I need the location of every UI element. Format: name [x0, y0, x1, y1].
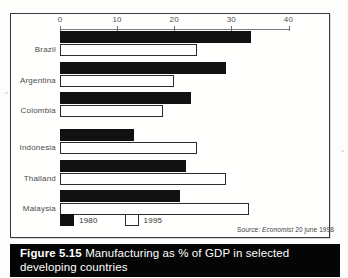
legend-swatch-1980	[60, 214, 74, 226]
x-axis-tick	[289, 26, 290, 31]
x-axis-tick-label: 10	[112, 15, 121, 24]
legend-label-1980: 1980	[79, 216, 98, 225]
bar-thailand-1980	[60, 160, 186, 172]
source-date: 20 june 1998	[295, 226, 334, 233]
bar-colombia-1980	[60, 92, 191, 104]
bar-indonesia-1995	[60, 142, 197, 154]
scan-speck	[5, 92, 8, 94]
bar-malaysia-1980	[60, 190, 180, 202]
source-prefix: Source:	[237, 226, 260, 233]
bar-argentina-1995	[60, 75, 174, 87]
legend-item-1995: 1995	[125, 214, 163, 226]
source-publication: Economist	[262, 226, 293, 233]
x-axis-tick-label: 30	[227, 15, 236, 24]
bar-thailand-1995	[60, 173, 226, 185]
source-note: Source: Economist 20 june 1998	[237, 226, 334, 233]
chart-legend: 1980 1995	[60, 214, 184, 226]
category-label-indonesia: Indonesia	[20, 143, 57, 152]
category-label-brazil: Brazil	[35, 45, 56, 54]
legend-swatch-1995	[125, 214, 139, 226]
bar-brazil-1980	[60, 31, 251, 43]
category-label-colombia: Colombia	[21, 106, 56, 115]
scan-speck	[341, 150, 344, 152]
figure-number: Figure 5.15	[20, 247, 82, 259]
bar-argentina-1980	[60, 62, 226, 74]
legend-label-1995: 1995	[144, 216, 163, 225]
x-axis-tick-label: 20	[170, 15, 179, 24]
category-label-malaysia: Malaysia	[23, 204, 56, 213]
category-label-thailand: Thailand	[24, 174, 56, 183]
figure-container: 010203040 BrazilArgentinaColombiaIndones…	[0, 0, 348, 278]
x-axis-tick-label: 0	[58, 15, 63, 24]
bar-brazil-1995	[60, 44, 197, 56]
x-axis-tick-label: 40	[284, 15, 293, 24]
figure-caption: Figure 5.15 Manufacturing as % of GDP in…	[10, 244, 340, 277]
bar-colombia-1995	[60, 105, 163, 117]
category-label-argentina: Argentina	[20, 76, 56, 85]
legend-item-1980: 1980	[60, 214, 98, 226]
bar-indonesia-1980	[60, 129, 134, 141]
